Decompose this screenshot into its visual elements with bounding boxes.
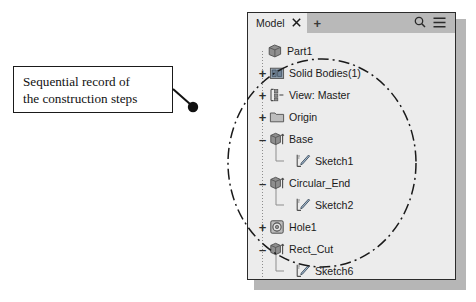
leader-dot xyxy=(188,102,198,112)
tree-item-view-master[interactable]: +View: Master xyxy=(256,84,350,106)
collapse-icon[interactable]: – xyxy=(256,172,269,194)
tree-item-label: Sketch6 xyxy=(315,265,353,277)
tree-item-label: Sketch2 xyxy=(315,199,353,211)
collapse-icon[interactable]: – xyxy=(256,128,269,150)
sketch-icon xyxy=(295,263,311,279)
annotation-callout-box: Sequential record of the construction st… xyxy=(13,66,173,113)
tree-item-sketch6[interactable]: Sketch6 xyxy=(282,260,353,279)
tab-model[interactable]: Model xyxy=(248,13,307,33)
expander-placeholder xyxy=(254,40,267,62)
model-tree-panel: Model + xyxy=(247,12,456,280)
origin-folder-icon xyxy=(269,109,285,125)
tree-item-label: View: Master xyxy=(289,89,350,101)
screenshot-root: Model + xyxy=(0,0,476,302)
expand-icon[interactable]: + xyxy=(256,84,269,106)
panel-tab-strip: Model + xyxy=(248,13,455,33)
callout-line-2: the construction steps xyxy=(23,90,172,107)
tree-item-circular-end[interactable]: –Circular_End xyxy=(256,172,350,194)
expander-placeholder xyxy=(282,150,295,172)
extrude-icon xyxy=(269,175,285,191)
expand-icon[interactable]: + xyxy=(256,106,269,128)
extrude-icon xyxy=(269,131,285,147)
solid-bodies-icon xyxy=(269,65,285,81)
tree-item-origin[interactable]: +Origin xyxy=(256,106,317,128)
tree-item-label: Solid Bodies(1) xyxy=(289,67,361,79)
tree-item-rect-cut[interactable]: –Rect_Cut xyxy=(256,238,333,260)
callout-line-1: Sequential record of xyxy=(23,73,172,90)
hamburger-menu-icon[interactable] xyxy=(433,14,446,32)
tree-item-label: Hole1 xyxy=(289,221,317,233)
expander-placeholder xyxy=(282,194,295,216)
collapse-icon[interactable]: – xyxy=(256,238,269,260)
panel-toolbar xyxy=(414,14,455,32)
tree-item-label: Sketch1 xyxy=(315,155,353,167)
expand-icon[interactable]: + xyxy=(256,216,269,238)
tree-item-label: Circular_End xyxy=(289,177,350,189)
sketch-icon xyxy=(295,197,311,213)
tree-item-sketch1[interactable]: Sketch1 xyxy=(282,150,353,172)
tree-item-base[interactable]: –Base xyxy=(256,128,313,150)
feature-tree[interactable]: Part1+Solid Bodies(1)+View: Master+Origi… xyxy=(248,33,455,279)
tree-item-sketch2[interactable]: Sketch2 xyxy=(282,194,353,216)
tab-model-label: Model xyxy=(256,17,285,29)
tree-item-label: Rect_Cut xyxy=(289,243,333,255)
sketch-icon xyxy=(295,153,311,169)
close-icon[interactable] xyxy=(292,18,301,29)
hole-icon xyxy=(269,219,285,235)
tree-item-solid-bodies-1[interactable]: +Solid Bodies(1) xyxy=(256,62,361,84)
expand-icon[interactable]: + xyxy=(256,62,269,84)
tree-item-label: Part1 xyxy=(287,45,312,57)
expander-placeholder xyxy=(282,260,295,279)
view-master-icon xyxy=(269,87,285,103)
part-cube-icon xyxy=(267,43,283,59)
plus-icon[interactable]: + xyxy=(314,17,322,30)
tree-item-label: Origin xyxy=(289,111,317,123)
tree-item-part1[interactable]: Part1 xyxy=(254,40,312,62)
tree-item-label: Base xyxy=(289,133,313,145)
search-icon[interactable] xyxy=(414,14,426,32)
extrude-icon xyxy=(269,241,285,257)
tree-item-hole1[interactable]: +Hole1 xyxy=(256,216,317,238)
